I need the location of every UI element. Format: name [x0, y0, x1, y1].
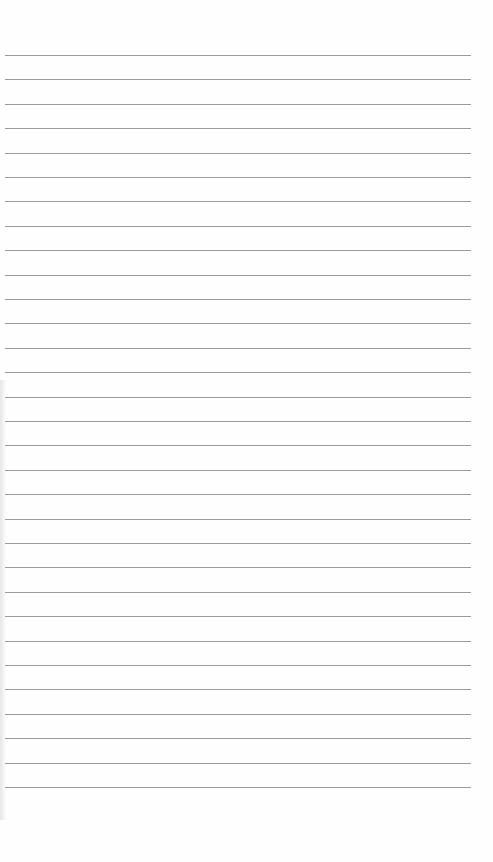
ruled-line [5, 348, 471, 349]
ruled-line [5, 470, 471, 471]
ruled-line [5, 128, 471, 129]
ruled-line [5, 55, 471, 56]
ruled-line [5, 543, 471, 544]
ruled-line [5, 275, 471, 276]
ruled-line [5, 250, 471, 251]
ruled-line [5, 641, 471, 642]
ruled-line [5, 787, 471, 788]
ruled-line [5, 738, 471, 739]
ruled-line [5, 445, 471, 446]
ruled-line [5, 372, 471, 373]
ruled-line [5, 153, 471, 154]
ruled-line [5, 226, 471, 227]
ruled-line [5, 689, 471, 690]
ruled-line [5, 763, 471, 764]
ruled-line [5, 665, 471, 666]
ruled-line [5, 714, 471, 715]
ruled-line [5, 323, 471, 324]
ruled-line [5, 616, 471, 617]
ruled-line [5, 592, 471, 593]
ruled-line [5, 201, 471, 202]
ruled-line [5, 421, 471, 422]
lined-paper-page [0, 0, 493, 862]
ruled-line [5, 567, 471, 568]
ruled-line [5, 494, 471, 495]
ruled-line [5, 104, 471, 105]
ruled-line [5, 519, 471, 520]
ruled-line [5, 79, 471, 80]
page-edge-shadow [0, 380, 6, 820]
ruled-line [5, 177, 471, 178]
ruled-line [5, 397, 471, 398]
ruled-line [5, 299, 471, 300]
